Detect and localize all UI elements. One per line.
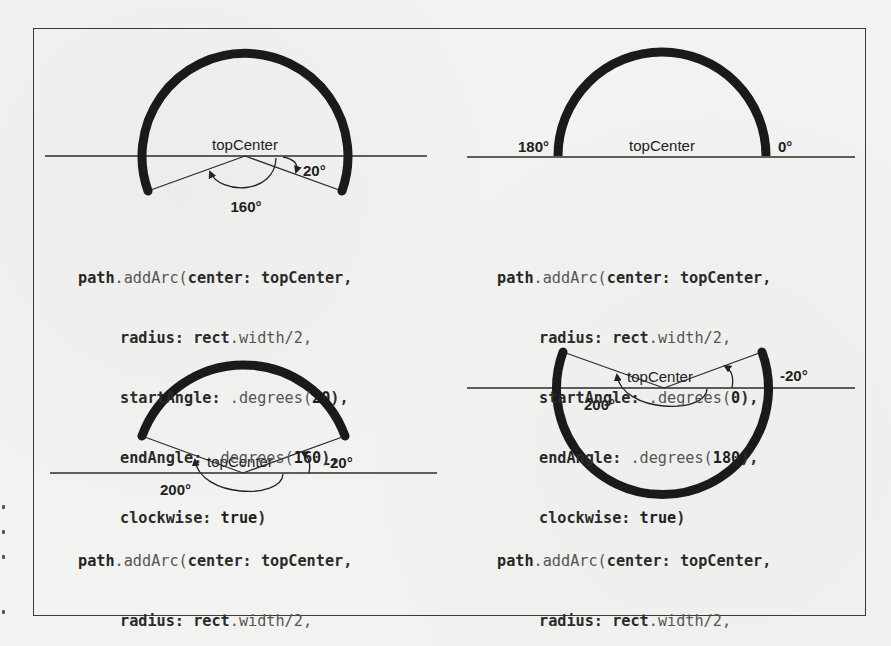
code-block-bottom-right: path.addArc(center: topCenter, radius: r… (497, 511, 777, 646)
code-line: path.addArc(center: topCenter, (78, 551, 358, 571)
angle-label-end: 160° (230, 198, 261, 215)
code-line: endAngle: .degrees(160), (78, 448, 352, 468)
code-line: startAngle: .degrees(0), (497, 388, 771, 408)
angle-arrow-start (283, 157, 297, 172)
code-line: path.addArc(center: topCenter, (497, 551, 777, 571)
code-line: radius: rect.width/2, (497, 328, 771, 348)
angle-arrow-end (210, 158, 276, 188)
code-block-top-right: path.addArc(center: topCenter, radius: r… (497, 228, 771, 548)
panel-top-left-diagram: topCenter 20° 160° (45, 53, 427, 215)
code-block-top-left: path.addArc(center: topCenter, radius: r… (78, 228, 352, 548)
angle-label-end: 180° (518, 138, 549, 155)
angle-label-start: -20° (780, 367, 808, 384)
code-line: path.addArc(center: topCenter, (78, 268, 352, 288)
code-line: path.addArc(center: topCenter, (497, 268, 771, 288)
code-line: radius: rect.width/2, (78, 611, 358, 631)
code-line: endAngle: .degrees(180), (497, 448, 771, 468)
center-label: topCenter (629, 137, 695, 154)
code-line: startAngle: .degrees(20), (78, 388, 352, 408)
angle-label-start: 20° (303, 162, 326, 179)
angle-label-start: 0° (778, 138, 792, 155)
panel-top-right-diagram: topCenter 180° 0° (467, 52, 855, 157)
code-block-bottom-left: path.addArc(center: topCenter, radius: r… (78, 511, 358, 646)
center-label: topCenter (212, 136, 278, 153)
code-line: radius: rect.width/2, (497, 611, 777, 631)
radius-line-end (148, 156, 245, 191)
code-line: radius: rect.width/2, (78, 328, 352, 348)
